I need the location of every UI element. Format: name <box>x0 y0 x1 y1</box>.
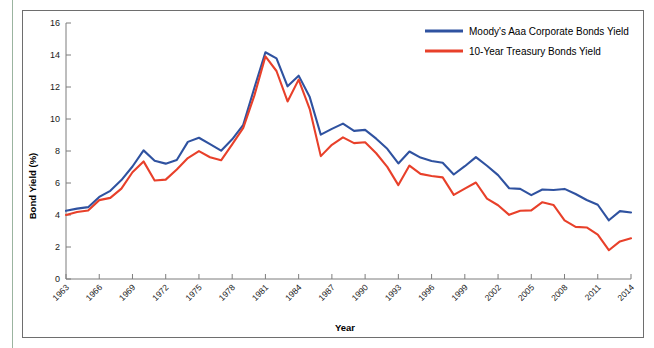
y-tick-label: 4 <box>55 210 60 220</box>
x-tick-label: 2011 <box>583 282 603 302</box>
y-tick-label: 14 <box>50 50 60 60</box>
x-tick-label: 1993 <box>383 282 404 303</box>
x-tick-label: 2014 <box>615 282 636 303</box>
series-lines <box>66 52 631 250</box>
page-margin-rule <box>12 0 13 348</box>
x-tick-label: 1981 <box>250 282 271 303</box>
bond-yield-line-chart: 0246810121416 19631966196919721975197819… <box>23 11 643 337</box>
x-axis-title: Year <box>335 322 355 333</box>
chart-legend: Moody's Aaa Corporate Bonds Yield10-Year… <box>425 26 629 57</box>
legend-label-2: 10-Year Treasury Bonds Yield <box>469 46 601 57</box>
x-tick-label: 2002 <box>483 282 504 303</box>
series-line-1 <box>66 52 631 220</box>
x-tick-label: 1996 <box>416 282 437 303</box>
y-axis: 0246810121416 <box>50 18 71 284</box>
x-tick-label: 1966 <box>84 282 105 303</box>
y-tick-label: 16 <box>50 18 60 28</box>
chart-frame: 0246810121416 19631966196919721975197819… <box>22 10 644 338</box>
x-axis: 1963196619691972197519781981198419871990… <box>50 274 636 303</box>
x-tick-label: 1975 <box>183 282 204 303</box>
y-tick-label: 12 <box>50 82 60 92</box>
x-tick-label: 1978 <box>217 282 238 303</box>
x-tick-label: 1990 <box>350 282 371 303</box>
x-tick-label: 2008 <box>549 282 570 303</box>
x-tick-label: 2005 <box>516 282 537 303</box>
x-tick-label: 1984 <box>283 282 304 303</box>
x-tick-label: 1987 <box>316 282 337 303</box>
series-line-2 <box>66 56 631 250</box>
y-tick-label: 10 <box>50 114 60 124</box>
y-tick-label: 2 <box>55 242 60 252</box>
figure-page: 0246810121416 19631966196919721975197819… <box>0 0 654 348</box>
x-tick-label: 1999 <box>449 282 470 303</box>
legend-label-1: Moody's Aaa Corporate Bonds Yield <box>469 26 629 37</box>
y-tick-label: 8 <box>55 146 60 156</box>
y-tick-label: 0 <box>55 274 60 284</box>
y-axis-title: Bond Yield (%) <box>27 153 38 220</box>
x-tick-label: 1969 <box>117 282 138 303</box>
x-tick-label: 1972 <box>150 282 171 303</box>
y-tick-label: 6 <box>55 178 60 188</box>
x-tick-label: 1963 <box>50 282 71 303</box>
